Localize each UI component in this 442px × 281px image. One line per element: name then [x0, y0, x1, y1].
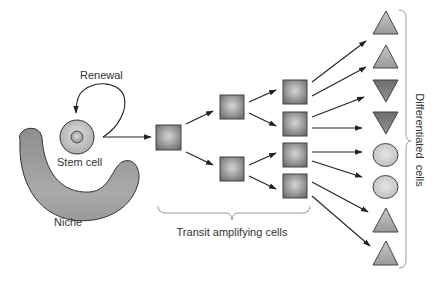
niche-label: Niche: [54, 216, 82, 228]
triangle-down-cell: [373, 112, 398, 134]
oval-cell: [373, 176, 398, 199]
differentiated-brace: [399, 10, 411, 268]
transit-cell: [156, 125, 181, 150]
oval-cell: [373, 144, 398, 167]
division-arrows: [186, 41, 370, 246]
transit-cell: [283, 80, 307, 104]
differentiated-cells-label: Differentiated cells: [414, 93, 426, 187]
triangle-up-cell: [373, 45, 398, 68]
transit-cell: [283, 112, 307, 136]
transit-brace: [158, 206, 310, 220]
transit-cell: [283, 174, 307, 198]
triangle-up-cell: [373, 241, 398, 265]
differentiated-cells: [373, 11, 398, 265]
renewal-label: Renewal: [80, 69, 123, 81]
transit-amplifying-cells: [156, 80, 307, 198]
triangle-up-cell: [373, 11, 398, 34]
transit-cell: [220, 95, 244, 119]
stem-cell: [60, 120, 94, 154]
transit-cell: [283, 143, 307, 167]
triangle-up-cell: [373, 208, 398, 232]
stem-cell-label: Stem cell: [57, 156, 102, 168]
triangle-down-cell: [373, 80, 398, 102]
stem-cell-diagram: Renewal Stem cell Niche Transit amplifyi…: [0, 0, 442, 281]
transit-cell: [220, 157, 244, 181]
transit-amplifying-label: Transit amplifying cells: [177, 226, 288, 238]
